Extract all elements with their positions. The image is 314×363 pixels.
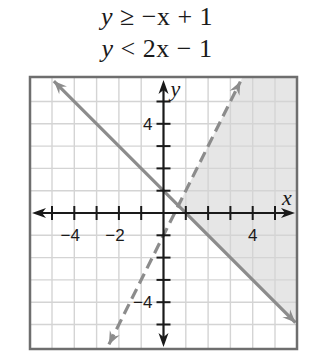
x-tick-label: 4 <box>248 226 257 245</box>
arrowhead-icon <box>109 330 120 344</box>
x-tick-label: −4 <box>61 226 80 245</box>
y-tick-label: 4 <box>143 115 152 134</box>
x-axis-label: x <box>281 185 292 210</box>
y-axis-label: y <box>169 76 181 101</box>
coordinate-graph: −4−244−4xy <box>0 0 314 363</box>
y-tick-label: −4 <box>133 293 152 312</box>
x-tick-label: −2 <box>105 226 124 245</box>
